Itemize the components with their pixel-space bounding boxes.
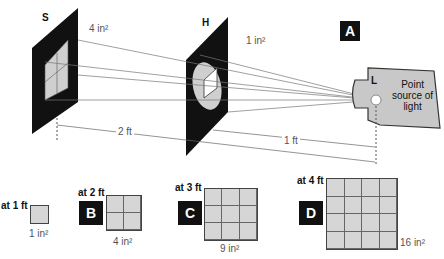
- screen-h-label: H: [202, 17, 209, 28]
- square-1: [30, 205, 49, 224]
- screen-s-area: 4 in²: [89, 23, 108, 34]
- screen-s-label: S: [42, 12, 49, 23]
- square-2-area: 4 in²: [113, 236, 132, 247]
- square-3: [204, 188, 258, 241]
- square-2-distance: at 2 ft: [78, 187, 105, 198]
- source-label: L: [371, 75, 377, 86]
- source-caption: Point source of light: [392, 79, 433, 112]
- square-3-distance: at 3 ft: [175, 182, 202, 193]
- panel-badge-d: D: [299, 201, 323, 225]
- panel-badge-a: A: [340, 21, 360, 41]
- square-2: [106, 195, 142, 231]
- square-4-area: 16 in²: [400, 237, 425, 248]
- panel-badge-b: B: [79, 201, 103, 225]
- distance-1ft: 1 ft: [282, 135, 300, 146]
- square-3-area: 9 in²: [220, 243, 239, 254]
- square-1-distance: at 1 ft: [1, 200, 28, 211]
- square-4-distance: at 4 ft: [297, 175, 324, 186]
- distance-2ft: 2 ft: [116, 126, 134, 137]
- screen-h-area: 1 in²: [246, 35, 265, 46]
- panel-badge-c: C: [178, 201, 202, 225]
- square-4: [326, 178, 398, 250]
- square-1-area: 1 in²: [29, 228, 48, 239]
